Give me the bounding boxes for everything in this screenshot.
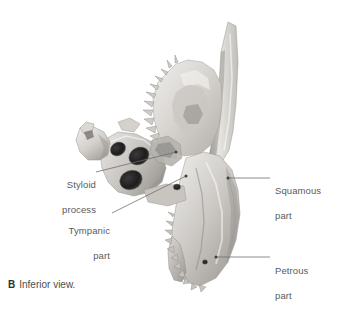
label-petrous-part-line1: Petrous [275,265,308,276]
label-squamous-part-line2: part [275,210,292,221]
leader-styloid-endpoint [175,151,178,154]
leader-squamous-endpoint [227,177,230,180]
figure-caption: BInferior view. [8,278,75,291]
foramen-mastoid-foramen [202,260,207,264]
label-tympanic-part-line1: Tympanic [69,225,110,236]
label-tympanic-part: Tympanic part [48,212,110,262]
figure-caption-text: Inferior view. [19,279,75,290]
foramen-stylomastoid-foramen [173,184,180,190]
leader-petrous-endpoint [215,256,218,259]
label-tympanic-part-line2: part [93,250,110,261]
label-petrous-part: Petrous part [275,252,341,302]
label-squamous-part-line1: Squamous [275,185,321,196]
label-styloid-process: Styloid process [44,166,96,216]
label-petrous-part-line2: part [275,290,292,301]
figure-caption-letter: B [8,279,15,290]
label-styloid-process-line1: Styloid [67,179,96,190]
label-squamous-part: Squamous part [275,172,341,222]
leader-tympanic-endpoint [185,175,188,178]
bone-chip-upper [118,118,140,132]
